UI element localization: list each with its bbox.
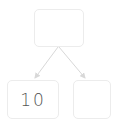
edge-root-right	[59, 47, 85, 78]
edge-root-left	[35, 47, 58, 78]
left-child-node[interactable]: 10	[7, 80, 59, 119]
left-child-value: 10	[20, 90, 46, 110]
root-node[interactable]	[34, 9, 84, 47]
right-child-node[interactable]	[73, 80, 111, 119]
